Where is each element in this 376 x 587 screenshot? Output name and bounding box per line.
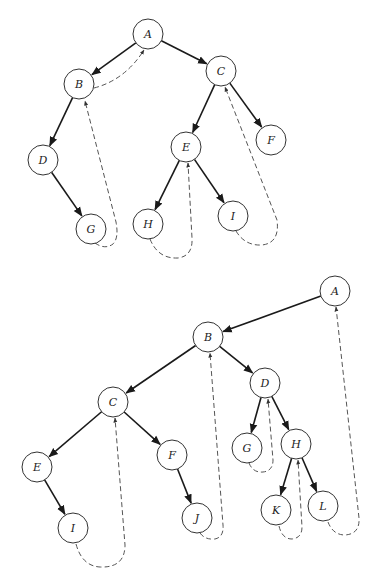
edge-d-to-g bbox=[251, 397, 261, 432]
node-label: A bbox=[143, 28, 152, 41]
node-f: F bbox=[157, 440, 187, 470]
node-k: K bbox=[261, 495, 291, 525]
thread-i-to-c bbox=[76, 418, 125, 567]
edge-a-to-b bbox=[92, 43, 136, 75]
node-label: H bbox=[290, 438, 301, 451]
node-label: E bbox=[32, 461, 41, 474]
node-f: F bbox=[256, 125, 286, 155]
node-label: G bbox=[87, 223, 96, 236]
node-g: G bbox=[232, 433, 262, 463]
edge-b-to-c bbox=[126, 345, 195, 392]
node-label: G bbox=[243, 442, 252, 455]
node-label: B bbox=[74, 78, 83, 91]
node-label: I bbox=[230, 210, 236, 223]
edge-c-to-e bbox=[49, 412, 101, 457]
node-label: C bbox=[217, 65, 226, 78]
edge-b-to-d bbox=[220, 346, 253, 373]
node-g: G bbox=[76, 214, 106, 244]
node-b: B bbox=[64, 69, 94, 99]
node-d: D bbox=[28, 145, 58, 175]
edge-c-to-f bbox=[124, 412, 160, 444]
node-label: C bbox=[109, 396, 118, 409]
node-a: A bbox=[133, 19, 163, 49]
node-h: H bbox=[133, 209, 163, 239]
node-j: J bbox=[182, 503, 212, 533]
bottom-tree: ABCDEFGHIJKL bbox=[22, 276, 359, 567]
node-label: I bbox=[70, 522, 76, 535]
node-label: F bbox=[167, 449, 176, 462]
node-label: E bbox=[181, 141, 190, 154]
node-label: F bbox=[266, 134, 275, 147]
edge-e-to-i bbox=[45, 480, 65, 514]
node-label: A bbox=[330, 285, 339, 298]
edge-a-to-b bbox=[223, 296, 321, 331]
node-b: B bbox=[193, 322, 223, 352]
node-i: I bbox=[58, 513, 88, 543]
node-label: B bbox=[203, 331, 212, 344]
node-label: L bbox=[318, 500, 326, 513]
node-c: C bbox=[98, 387, 128, 417]
edge-d-to-h bbox=[272, 396, 289, 429]
node-label: J bbox=[193, 512, 200, 525]
node-l: L bbox=[308, 491, 338, 521]
node-c: C bbox=[206, 56, 236, 86]
top-tree: ABCDEFGHI bbox=[28, 19, 286, 258]
edge-d-to-g bbox=[52, 172, 82, 216]
node-d: D bbox=[250, 368, 280, 398]
edge-c-to-e bbox=[193, 85, 215, 133]
edge-h-to-k bbox=[281, 458, 292, 494]
edge-a-to-c bbox=[161, 41, 206, 64]
node-e: E bbox=[22, 452, 52, 482]
edge-h-to-l bbox=[302, 458, 317, 492]
node-i: I bbox=[218, 201, 248, 231]
node-label: D bbox=[260, 377, 270, 390]
node-h: H bbox=[281, 429, 311, 459]
edge-e-to-i bbox=[194, 159, 224, 202]
edge-f-to-j bbox=[178, 469, 192, 503]
edge-e-to-h bbox=[155, 160, 179, 209]
threaded-tree-diagram: ABCDEFGHI ABCDEFGHIJKL bbox=[0, 0, 376, 587]
edge-c-to-f bbox=[230, 83, 262, 127]
node-label: D bbox=[38, 154, 48, 167]
edge-b-to-d bbox=[50, 98, 73, 146]
node-e: E bbox=[171, 132, 201, 162]
node-a: A bbox=[320, 276, 350, 306]
node-label: K bbox=[271, 504, 281, 517]
node-label: H bbox=[142, 218, 153, 231]
